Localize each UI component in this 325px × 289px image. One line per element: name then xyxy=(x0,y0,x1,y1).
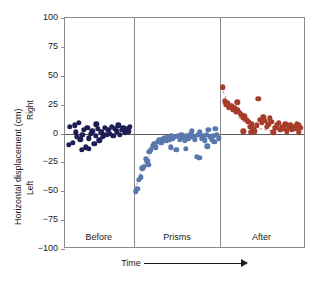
y-tick-label: 75 xyxy=(28,41,62,51)
data-point xyxy=(212,126,217,131)
chart-figure: Horizontal displacement (cm) Right Left … xyxy=(0,0,325,289)
y-axis-title: Horizontal displacement (cm) xyxy=(13,108,23,225)
y-tick-label: 25 xyxy=(28,99,62,109)
y-tick-label: −50 xyxy=(28,185,62,195)
data-point xyxy=(79,147,84,152)
data-point xyxy=(197,155,202,160)
data-point xyxy=(153,145,158,150)
data-point xyxy=(110,133,115,138)
y-axis-tick-labels: 1007550250−25−50−75−100 xyxy=(28,0,62,289)
y-tick-mark xyxy=(61,105,65,106)
y-tick-mark xyxy=(61,249,65,250)
panel-divider xyxy=(220,18,221,247)
y-tick-label: −100 xyxy=(28,243,62,253)
data-point xyxy=(220,85,225,90)
panel-label-after: After xyxy=(252,232,271,242)
data-point xyxy=(138,175,143,180)
data-point xyxy=(146,162,151,167)
y-tick-label: 0 xyxy=(28,128,62,138)
y-tick-mark xyxy=(61,220,65,221)
plot-area: BeforePrismsAfter xyxy=(64,17,305,248)
y-tick-mark xyxy=(61,47,65,48)
x-axis-title: Time xyxy=(121,258,141,268)
panel-divider xyxy=(134,18,135,247)
data-point xyxy=(127,124,132,129)
panel-label-prisms: Prisms xyxy=(163,232,191,242)
data-point xyxy=(192,137,197,142)
y-axis-label-group: Horizontal displacement (cm) Right Left xyxy=(0,0,22,250)
y-tick-label: 50 xyxy=(28,70,62,80)
y-tick-label: −75 xyxy=(28,214,62,224)
y-tick-label: −25 xyxy=(28,156,62,166)
y-tick-mark xyxy=(61,18,65,19)
y-tick-mark xyxy=(61,191,65,192)
data-point xyxy=(91,141,96,146)
data-point xyxy=(86,135,91,140)
data-point xyxy=(76,120,81,125)
data-point xyxy=(256,96,261,101)
data-point xyxy=(168,145,173,150)
data-point xyxy=(202,138,207,143)
data-point xyxy=(72,123,77,128)
data-point xyxy=(86,146,91,151)
y-tick-mark xyxy=(61,162,65,163)
x-axis-label-row: Time xyxy=(64,256,305,270)
data-point xyxy=(204,144,209,149)
data-point xyxy=(66,142,71,147)
data-point xyxy=(78,137,83,142)
data-point xyxy=(80,132,85,137)
time-arrow-icon xyxy=(144,259,248,268)
data-point xyxy=(174,147,179,152)
x-axis: Time xyxy=(64,252,305,278)
panel-label-before: Before xyxy=(85,232,112,242)
data-point xyxy=(206,127,211,132)
plot-inner: BeforePrismsAfter xyxy=(65,18,304,247)
data-point xyxy=(212,139,217,144)
data-point xyxy=(235,100,240,105)
data-point xyxy=(135,186,140,191)
data-point xyxy=(183,146,188,151)
y-tick-label: 100 xyxy=(28,12,62,22)
y-tick-mark xyxy=(61,76,65,77)
